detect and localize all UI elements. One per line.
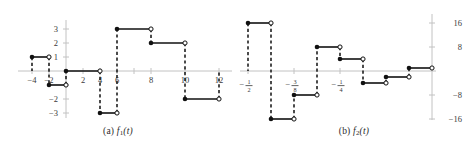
closed-dot-b-1 xyxy=(246,21,251,26)
closed-dot-b-5 xyxy=(338,57,343,62)
chart-a-svg: 3 2 1 −2 −3 −4 xyxy=(0,0,236,124)
y-tick-label-1-a: 1 xyxy=(54,52,58,62)
open-dot-a-6 xyxy=(183,41,187,45)
x-tick-b-1-den: 2 xyxy=(247,86,250,93)
x-tick-label-2-a: 2 xyxy=(81,75,85,85)
closed-dot-a-3 xyxy=(64,69,69,74)
x-tick-b-1-sign: − xyxy=(240,79,245,89)
y-tick-label-neg16-b: −16 xyxy=(449,114,462,124)
x-tick-b-3-sign: − xyxy=(332,79,337,89)
x-tick-label-neg4-a: −4 xyxy=(27,75,37,85)
open-dot-b-1 xyxy=(269,21,273,25)
caption-b-tag: (b) xyxy=(339,126,351,136)
figure-step-functions: 3 2 1 −2 −3 −4 xyxy=(0,0,472,149)
open-dot-a-4 xyxy=(115,111,119,115)
open-dot-b-7 xyxy=(407,75,411,79)
closed-dot-a-5 xyxy=(115,27,120,32)
open-dot-a-2 xyxy=(64,83,68,87)
open-dot-a-1 xyxy=(47,55,51,59)
closed-dot-a-7 xyxy=(183,97,188,102)
closed-dot-a-2 xyxy=(47,83,52,88)
open-dot-a-7 xyxy=(217,97,221,101)
open-dot-a-3 xyxy=(98,69,102,73)
closed-dot-b-8 xyxy=(407,66,412,71)
closed-dot-b-4 xyxy=(315,45,320,50)
open-dot-b-6 xyxy=(384,81,388,85)
open-dot-b-2 xyxy=(292,117,296,121)
closed-dot-a-4 xyxy=(98,111,103,116)
plot-a: 3 2 1 −2 −3 −4 xyxy=(0,0,236,124)
y-tick-label-2-a: 2 xyxy=(54,38,58,48)
panel-b: 16 8 −8 −16 − 1 2 − xyxy=(236,0,472,149)
y-tick-label-neg2-a: −2 xyxy=(49,94,58,104)
caption-a-function: f1(t) xyxy=(117,126,133,136)
x-tick-b-2-num: 3 xyxy=(293,78,296,85)
x-tick-label-neg-one-quarter-b: − 1 4 xyxy=(332,78,345,93)
caption-a-fn-arg: (t) xyxy=(123,126,133,136)
caption-b-function: f2(t) xyxy=(353,126,369,136)
x-tick-label-neg-three-eighths-b: − 3 8 xyxy=(286,78,299,93)
open-dot-b-4 xyxy=(338,45,342,49)
y-tick-label-neg8-b: −8 xyxy=(453,90,462,100)
x-tick-b-1-num: 1 xyxy=(247,78,250,85)
chart-b-svg: 16 8 −8 −16 − 1 2 − xyxy=(236,0,472,124)
x-tick-b-2-den: 8 xyxy=(293,86,296,93)
y-tick-label-3-a: 3 xyxy=(54,24,58,34)
closed-dot-b-6 xyxy=(361,81,366,86)
closed-dot-a-6 xyxy=(149,41,154,46)
x-tick-label-neg-one-half-b: − 1 2 xyxy=(240,78,253,93)
open-dot-b-5 xyxy=(361,57,365,61)
closed-dot-b-7 xyxy=(384,75,389,80)
closed-dot-b-3 xyxy=(292,93,297,98)
caption-a-tag: (a) xyxy=(103,126,114,136)
panel-a: 3 2 1 −2 −3 −4 xyxy=(0,0,236,149)
caption-b-fn-arg: (t) xyxy=(360,126,370,136)
x-tick-b-3-den: 4 xyxy=(339,86,342,93)
closed-dot-a-1 xyxy=(30,55,35,60)
x-tick-b-2-sign: − xyxy=(286,79,291,89)
x-tick-label-8-a: 8 xyxy=(149,75,153,85)
plot-b: 16 8 −8 −16 − 1 2 − xyxy=(236,0,472,124)
closed-dot-b-2 xyxy=(269,117,274,122)
y-tick-label-neg3-a: −3 xyxy=(49,108,58,118)
y-tick-label-8-b: 8 xyxy=(458,42,462,52)
open-dot-b-3 xyxy=(315,93,319,97)
open-dot-b-8 xyxy=(430,66,434,70)
caption-a: (a) f1(t) xyxy=(0,126,236,137)
open-dot-a-5 xyxy=(149,27,153,31)
caption-b: (b) f2(t) xyxy=(236,126,472,137)
y-tick-label-16-b: 16 xyxy=(454,18,463,28)
x-tick-b-3-num: 1 xyxy=(339,78,342,85)
